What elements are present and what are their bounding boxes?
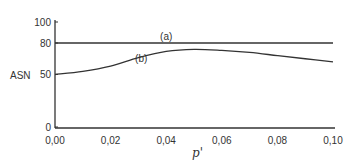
axes [55, 20, 335, 128]
series-annotations: (a)(b) [135, 31, 172, 64]
y-axis-label: ASN [10, 70, 31, 81]
y-tick-label: 100 [34, 17, 51, 28]
series-label: (a) [160, 31, 172, 42]
x-tick-label: 0,10 [323, 135, 343, 146]
x-tick-label: 0,08 [268, 135, 288, 146]
x-tick-label: 0,00 [45, 135, 65, 146]
x-tick-label: 0,02 [101, 135, 121, 146]
series-label: (b) [135, 53, 147, 64]
y-tick-label: 50 [40, 69, 52, 80]
chart: 05080100 0,000,020,040,060,080,10 ASN p'… [0, 0, 356, 168]
series-line-b [55, 49, 333, 74]
series-lines [55, 43, 333, 75]
y-tick-label: 0 [45, 122, 51, 133]
x-tick-label: 0,04 [156, 135, 176, 146]
x-tick-labels: 0,000,020,040,060,080,10 [45, 135, 343, 146]
y-tick-label: 80 [40, 38, 52, 49]
x-tick-label: 0,06 [212, 135, 232, 146]
x-axis-label: p' [192, 146, 203, 160]
